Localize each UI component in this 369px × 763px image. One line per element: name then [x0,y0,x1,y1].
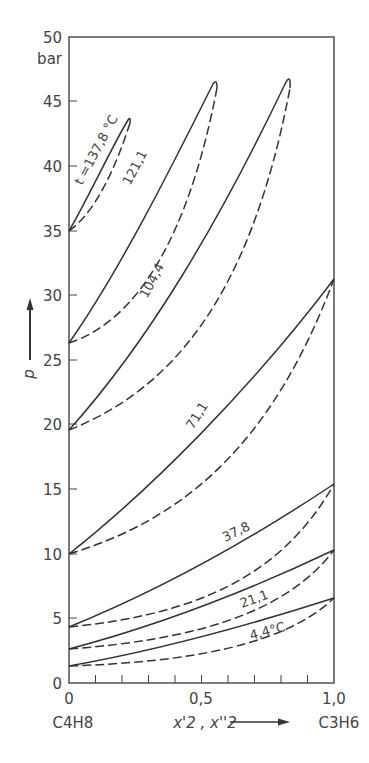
x-ticks [96,675,308,683]
curves [69,79,334,666]
y-tick-30: 30 [43,287,62,305]
curve-121.1-boiling [69,82,217,343]
x-tick-0.5: 0,5 [189,690,213,708]
y-tick-5: 5 [52,610,62,628]
y-tick-25: 25 [43,352,62,370]
y-tick-labels: 50 45 40 35 30 25 20 15 10 5 0 [43,29,62,693]
y-tick-45: 45 [43,93,62,111]
curve-4.4-dew [69,598,334,666]
arrow-right-icon [278,719,290,726]
curve-37.8-dew [69,484,334,627]
x-left-component: C4H8 [53,714,94,732]
y-axis-label: p [20,298,38,380]
x-tick-labels: 0 0,5 1,0 [64,690,346,708]
y-tick-10: 10 [43,546,62,564]
arrow-up-icon [27,298,34,310]
vapor-liquid-equilibrium-chart: 50 45 40 35 30 25 20 15 10 5 0 bar p 0 0… [0,0,369,763]
x-axis-label: x'2 , x''2 [172,714,237,732]
y-unit-label: bar [37,50,63,68]
curve-37.8-boiling [69,484,334,627]
x-tick-1.0: 1,0 [322,690,346,708]
curve-121.1-dew [69,88,217,343]
y-tick-40: 40 [43,158,62,176]
x-tick-0: 0 [64,690,74,708]
label-121.1: 121,1 [119,148,150,188]
label-137.8: t =137,8 °C [71,112,120,187]
y-tick-15: 15 [43,481,62,499]
x-axis-arrow [230,719,290,726]
y-tick-35: 35 [43,223,62,241]
label-37.8: 37,8 [220,519,253,545]
curve-4.4-boiling [69,598,334,666]
x-right-component: C3H6 [319,714,360,732]
label-104.4: 104,4 [136,261,167,301]
y-tick-20: 20 [43,416,62,434]
svg-text:p: p [20,369,38,380]
y-tick-0: 0 [52,675,62,693]
y-tick-50: 50 [43,29,62,47]
